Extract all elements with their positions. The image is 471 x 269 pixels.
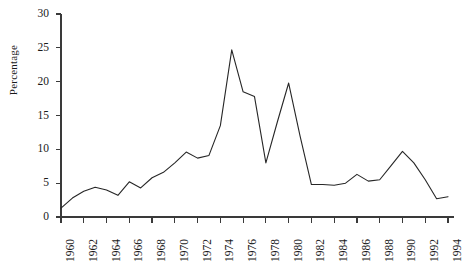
x-tick-label: 1988: [384, 222, 395, 262]
x-tick-label: 1986: [361, 222, 372, 262]
x-tick-label: 1980: [293, 222, 304, 262]
x-tick-label: 1972: [202, 222, 213, 262]
x-tick-label: 1962: [88, 222, 99, 262]
x-tick-label: 1960: [65, 222, 76, 262]
line-chart-figure: Percentage 051015202530 1960196219641966…: [0, 0, 471, 269]
x-tick-label: 1978: [270, 222, 281, 262]
x-tick-label: 1974: [224, 222, 235, 262]
y-axis-title: Percentage: [7, 0, 21, 140]
y-tick-label: 30: [23, 8, 49, 19]
axes: [56, 14, 454, 223]
y-tick-label: 20: [23, 76, 49, 87]
data-series: [61, 50, 448, 208]
x-tick-label: 1966: [133, 222, 144, 262]
x-tick-label: 1982: [315, 222, 326, 262]
y-tick-label: 5: [23, 177, 49, 188]
x-tick-label: 1992: [429, 222, 440, 262]
series-line: [61, 50, 448, 208]
x-tick-label: 1990: [406, 222, 417, 262]
y-tick-label: 15: [23, 110, 49, 121]
x-tick-label: 1994: [452, 222, 463, 262]
y-tick-label: 10: [23, 143, 49, 154]
x-tick-label: 1968: [156, 222, 167, 262]
x-tick-label: 1976: [247, 222, 258, 262]
y-tick-label: 25: [23, 42, 49, 53]
x-tick-label: 1984: [338, 222, 349, 262]
x-tick-label: 1970: [179, 222, 190, 262]
x-tick-label: 1964: [111, 222, 122, 262]
y-tick-label: 0: [23, 211, 49, 222]
